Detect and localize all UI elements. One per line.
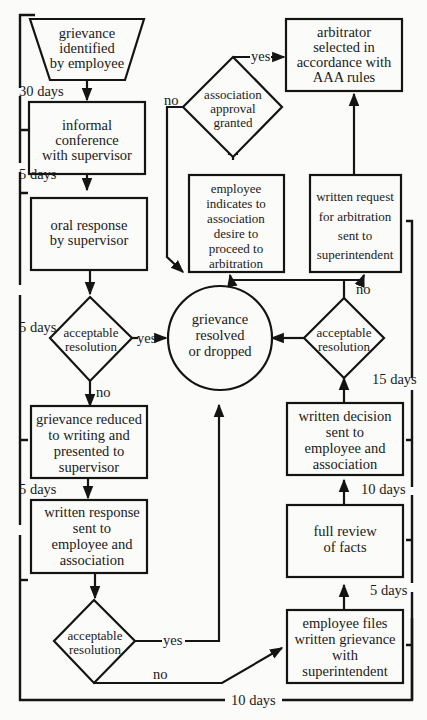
svg-text:arbitrator: arbitrator (317, 24, 371, 40)
svg-text:for arbitration: for arbitration (319, 209, 392, 224)
node-arbitrator-selected: arbitrator selected in accordance with A… (286, 19, 402, 91)
svg-text:written response: written response (44, 504, 139, 520)
svg-text:association: association (207, 211, 265, 226)
time-label-5-days-2: 5 days (19, 319, 57, 335)
node-grievance-resolved: grievance resolved or dropped (168, 286, 272, 390)
node-decision-1: acceptable resolution (50, 297, 132, 381)
svg-text:by supervisor: by supervisor (50, 232, 129, 248)
svg-text:grievance: grievance (192, 311, 248, 327)
svg-text:desire to: desire to (214, 226, 258, 241)
svg-text:supervisor: supervisor (59, 459, 120, 475)
svg-text:informal: informal (62, 117, 112, 133)
svg-text:with: with (332, 647, 359, 663)
node-decision-2: acceptable resolution (54, 600, 135, 683)
svg-text:proceed to: proceed to (209, 241, 264, 256)
bracket-5-days-informal (20, 96, 28, 163)
node-oral-response: oral response by supervisor (31, 198, 147, 270)
svg-text:acceptable: acceptable (317, 325, 372, 340)
time-label-5-days-1: 5 days (19, 166, 57, 182)
svg-text:presented to: presented to (54, 443, 124, 459)
bracket-5-days (406, 495, 412, 583)
svg-text:employee and: employee and (305, 440, 387, 456)
svg-text:written request: written request (316, 189, 394, 204)
svg-text:approval: approval (210, 101, 256, 116)
svg-text:full review: full review (313, 523, 377, 539)
time-label-30-days: 30 days (19, 83, 64, 99)
node-employee-files: employee files written grievance with su… (287, 610, 403, 683)
approval-no-label: no (164, 92, 179, 108)
bracket-files (406, 592, 412, 700)
node-full-review: full review of facts (287, 505, 403, 577)
svg-text:or dropped: or dropped (188, 343, 252, 359)
bracket-5-days-oral (20, 172, 28, 285)
svg-text:with supervisor: with supervisor (42, 147, 132, 163)
decision-1-no-label: no (96, 384, 111, 400)
svg-text:resolution: resolution (69, 642, 121, 657)
svg-text:identified: identified (59, 40, 115, 56)
time-label-15-days: 15 days (372, 371, 417, 387)
decision-2-no-label: no (153, 666, 168, 682)
time-label-5-days-3: 5 days (19, 481, 57, 497)
svg-text:written grievance: written grievance (294, 631, 395, 647)
svg-text:AAA rules: AAA rules (313, 69, 376, 85)
decision-2-yes-label: yes (163, 632, 183, 648)
svg-text:accordance with: accordance with (297, 54, 392, 70)
bracket-15-days (406, 221, 412, 378)
node-association-approval: association approval granted (183, 57, 282, 157)
svg-text:sent to: sent to (326, 424, 364, 440)
time-label-10-days-bottom: 10 days (231, 692, 276, 708)
svg-text:sent to: sent to (338, 228, 372, 243)
svg-text:indicates to: indicates to (206, 196, 266, 211)
svg-text:association: association (313, 456, 378, 472)
svg-text:by employee: by employee (50, 55, 125, 71)
svg-text:resolved: resolved (195, 327, 245, 343)
svg-text:to writing and: to writing and (48, 427, 130, 443)
svg-text:of facts: of facts (323, 539, 366, 555)
node-decision-3: acceptable resolution (304, 298, 384, 378)
bracket-10-days (406, 390, 412, 487)
grievance-procedure-flowchart: grievance identified by employee informa… (0, 0, 427, 720)
node-grievance-reduced: grievance reduced to writing and present… (31, 406, 147, 478)
node-written-response: written response sent to employee and as… (31, 500, 147, 573)
svg-text:employee and: employee and (52, 536, 134, 552)
decision-3-no-label: no (356, 281, 371, 297)
svg-text:granted: granted (214, 115, 253, 130)
svg-text:arbitration: arbitration (209, 256, 264, 271)
svg-text:conference: conference (55, 132, 119, 148)
svg-text:sent to: sent to (73, 520, 111, 536)
svg-text:superintendent: superintendent (317, 247, 394, 262)
svg-text:selected in: selected in (313, 39, 375, 55)
svg-text:resolution: resolution (65, 339, 117, 354)
svg-text:written decision: written decision (298, 408, 392, 424)
svg-text:oral response: oral response (51, 217, 128, 233)
svg-text:acceptable: acceptable (68, 628, 123, 643)
svg-text:grievance reduced: grievance reduced (36, 411, 143, 427)
svg-text:resolution: resolution (318, 339, 370, 354)
svg-text:employee files: employee files (303, 615, 388, 631)
decision-1-yes-label: yes (137, 330, 157, 346)
node-written-request: written request for arbitration sent to … (310, 175, 401, 272)
svg-text:acceptable: acceptable (64, 325, 119, 340)
node-grievance-identified: grievance identified by employee (30, 19, 144, 80)
right-time-brackets (406, 221, 412, 700)
approval-yes-label: yes (251, 48, 271, 64)
svg-text:superintendent: superintendent (302, 663, 387, 679)
time-label-10-days: 10 days (361, 481, 406, 497)
svg-text:association: association (60, 552, 125, 568)
svg-text:association: association (204, 87, 262, 102)
svg-text:grievance: grievance (59, 25, 115, 41)
svg-text:employee: employee (211, 181, 262, 196)
node-employee-indicates: employee indicates to association desire… (189, 175, 284, 272)
node-written-decision: written decision sent to employee and as… (287, 403, 403, 475)
time-label-5-days-right: 5 days (370, 582, 408, 598)
node-informal-conference: informal conference with supervisor (29, 102, 145, 174)
